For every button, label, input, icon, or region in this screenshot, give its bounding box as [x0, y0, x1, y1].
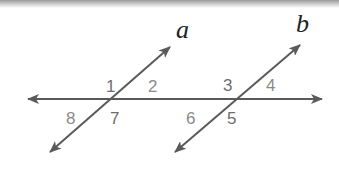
line-label-b: b — [296, 9, 309, 38]
angle-label-8: 8 — [66, 109, 75, 128]
angle-label-4: 4 — [266, 76, 275, 95]
angle-label-3: 3 — [223, 76, 232, 95]
angle-label-6: 6 — [186, 109, 195, 128]
angle-label-7: 7 — [110, 109, 119, 128]
line-label-a: a — [176, 15, 189, 44]
angle-label-2: 2 — [148, 77, 157, 96]
angle-label-5: 5 — [227, 109, 236, 128]
angle-label-1: 1 — [106, 77, 115, 96]
parallel-lines-diagram: a b 1 2 3 4 5 6 7 8 — [0, 0, 339, 174]
